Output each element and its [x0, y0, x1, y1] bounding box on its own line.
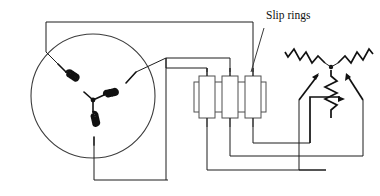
stator-circle: [31, 34, 155, 158]
lead-wire-phase-b: [136, 58, 230, 72]
rheostat-resistor-left: [285, 49, 325, 63]
lead-wire-phase-c: [94, 145, 168, 180]
rheostat-wiper-center-arrowhead: [338, 96, 345, 102]
rheostat-assembly: [285, 49, 373, 170]
winding-bottom: [91, 100, 99, 145]
routing-wire-inner: [253, 127, 310, 143]
rheostat-resistor-center: [325, 70, 337, 118]
lead-wire-phase-b-branch: [166, 58, 207, 72]
winding-right: [93, 72, 136, 100]
rheostat-resistor-right: [338, 49, 373, 63]
rheostat-leg-left: [299, 100, 326, 170]
slip-ring-3: [245, 76, 261, 118]
wye-center-node: [91, 98, 96, 103]
routing-wire-middle: [230, 127, 352, 156]
slip-ring-assembly: [194, 68, 266, 127]
motor-slip-ring-diagram: Slip rings: [0, 0, 380, 196]
slip-rings-label: Slip rings: [266, 10, 310, 22]
winding-left: [58, 64, 93, 100]
routing-wire-outer: [207, 127, 326, 170]
slip-ring-1: [199, 76, 215, 118]
slip-ring-2: [222, 76, 238, 118]
rheostat-wiper-right: [347, 75, 363, 100]
lead-wire-phase-a: [46, 22, 253, 72]
diagram-canvas: [0, 0, 380, 196]
rheostat-leg-right: [352, 100, 363, 156]
rheostat-wiper-left-arrowhead: [312, 73, 319, 80]
